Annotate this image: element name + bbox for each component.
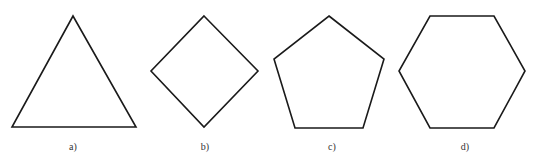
polygon-figure [0,0,534,164]
label-b: b) [201,141,209,152]
label-d: d) [461,141,469,152]
pentagon-shape [274,16,384,128]
square-shape [151,16,258,127]
hexagon-shape [399,16,525,128]
label-a: a) [69,141,77,152]
label-c: c) [328,141,336,152]
triangle-shape [12,16,136,127]
